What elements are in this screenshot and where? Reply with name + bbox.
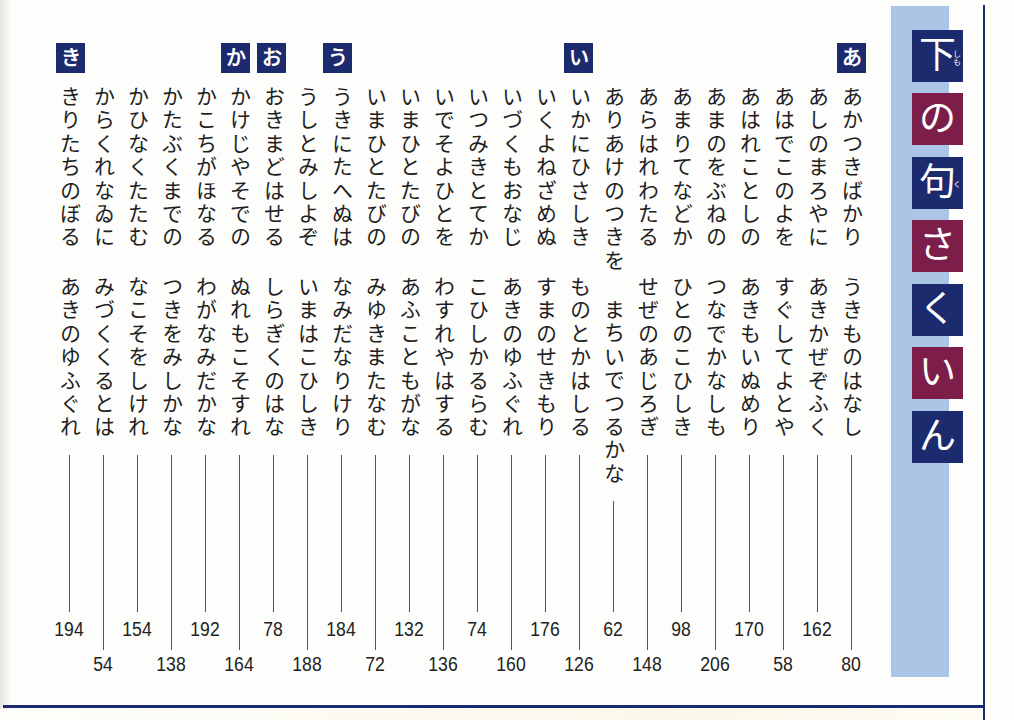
- verse-line-2: わがなみだかな: [188, 276, 222, 440]
- page-number: 138: [145, 654, 196, 674]
- index-entry: あはでこのよを すぐしてよとや 58: [766, 86, 800, 650]
- verse-line-1: ありあけのつきを: [596, 86, 630, 273]
- index-entry: いづくもおなじ あきのゆふぐれ 160: [494, 86, 528, 650]
- title-char-box: い: [912, 347, 963, 399]
- leader-line: [477, 455, 478, 612]
- verse-line-2: こひしかるらむ: [460, 276, 494, 440]
- page-number: 80: [825, 654, 876, 674]
- leader-line: [137, 455, 138, 612]
- index-entry: いくよねざめぬ すまのせきもり 176: [528, 86, 562, 612]
- verse-line-1: あはれことしの: [732, 86, 766, 250]
- ruby-reading: く: [951, 180, 960, 188]
- page-number: 136: [417, 654, 468, 674]
- bottom-margin: [0, 709, 984, 720]
- title-char-box: さ: [912, 220, 963, 272]
- index-entry: あまのをぶねの つなでかなしも 206: [698, 86, 732, 650]
- index-entry: あまりてなどか ひとのこひしき 98: [664, 86, 698, 612]
- leader-line: [443, 455, 444, 650]
- index-entry: あかつきばかり うきものはなし 80: [834, 86, 868, 650]
- leader-line: [307, 455, 308, 650]
- verse-line-1: かけじやそでの: [222, 86, 256, 250]
- index-entry: いかにひさしき ものとかはしる 126: [562, 86, 596, 650]
- leader-line: [851, 455, 852, 650]
- leader-line: [511, 455, 512, 650]
- index-entry: うしとみしよぞ いまはこひしき 188: [290, 86, 324, 650]
- verse-line-2: まちいでつるかな: [596, 299, 630, 486]
- index-entry: うきにたへぬは なみだなりけり 184: [324, 86, 358, 612]
- frame-vertical-rule: [983, 5, 985, 720]
- leader-line: [103, 455, 104, 650]
- verse-line-1: いつみきとてか: [460, 86, 494, 250]
- verse-line-1: きりたちのぼる: [52, 86, 86, 250]
- verse-line-2: せぜのあじろぎ: [630, 276, 664, 440]
- index-entry: いでそよひとを わすれやはする 136: [426, 86, 460, 650]
- section-tag-a: あ: [837, 43, 866, 73]
- verse-line-2: あふこともがな: [392, 276, 426, 440]
- verse-line-2: ひとのこひしき: [664, 276, 698, 440]
- title-char: く: [919, 284, 956, 336]
- index-entry: あしのまろやに あきかぜぞふく 162: [800, 86, 834, 612]
- verse-line-2: みづくくるとは: [86, 276, 120, 440]
- verse-line-1: いづくもおなじ: [494, 86, 528, 250]
- verse-line-2: うきものはなし: [834, 276, 868, 440]
- verse-line-1: あはでこのよを: [766, 86, 800, 250]
- index-entry: あらはれわたる せぜのあじろぎ 148: [630, 86, 664, 650]
- verse-line-1: あらはれわたる: [630, 86, 664, 250]
- index-entry: いまひとたびの あふこともがな 132: [392, 86, 426, 612]
- verse-line-2: ものとかはしる: [562, 276, 596, 440]
- page-number: 164: [213, 654, 264, 674]
- verse-line-2: つなでかなしも: [698, 276, 732, 440]
- verse-line-1: うきにたへぬは: [324, 86, 358, 250]
- verse-line-1: あまのをぶねの: [698, 86, 732, 250]
- verse-line-1: あしのまろやに: [800, 86, 834, 250]
- verse-line-2: あきもいぬめり: [732, 276, 766, 440]
- verse-line-1: うしとみしよぞ: [290, 86, 324, 250]
- verse-line-2: わすれやはする: [426, 276, 460, 440]
- title-char: さ: [919, 220, 956, 272]
- verse-line-1: いでそよひとを: [426, 86, 460, 250]
- verse-line-1: いくよねざめぬ: [528, 86, 562, 250]
- title-char-box: く: [912, 284, 963, 336]
- verse-line-1: いかにひさしき: [562, 86, 596, 250]
- index-entry: かひなくたたむ なこそをしけれ 154: [120, 86, 154, 612]
- verse-line-2: ぬれもこそすれ: [222, 276, 256, 440]
- title-char: ん: [919, 411, 956, 463]
- page-gutter-shadow: [0, 0, 12, 720]
- verse-line-1: いまひとたびの: [392, 86, 426, 250]
- leader-line: [579, 455, 580, 650]
- index-entry: かたぶくまでの つきをみしかな 138: [154, 86, 188, 650]
- leader-line: [239, 455, 240, 650]
- leader-line: [613, 501, 614, 612]
- verse-line-2: すまのせきもり: [528, 276, 562, 440]
- verse-line-2: あきかぜぞふく: [800, 276, 834, 440]
- verse-line-2: すぐしてよとや: [766, 276, 800, 440]
- index-entry: あはれことしの あきもいぬめり 170: [732, 86, 766, 612]
- leader-line: [545, 455, 546, 612]
- verse-line-2: つきをみしかな: [154, 276, 188, 440]
- leader-line: [647, 455, 648, 650]
- verse-line-2: なみだなりけり: [324, 276, 358, 440]
- page-number: 72: [349, 654, 400, 674]
- page-number: 188: [281, 654, 332, 674]
- verse-line-2: みゆきまたなむ: [358, 276, 392, 440]
- verse-line-1: あかつきばかり: [834, 86, 868, 250]
- ruby-reading: しも: [951, 50, 960, 66]
- verse-line-2: しらぎくのはな: [256, 276, 290, 440]
- verse-line-1: あまりてなどか: [664, 86, 698, 250]
- title-char-box: の: [912, 93, 963, 145]
- leader-line: [681, 455, 682, 612]
- title-char: の: [919, 93, 956, 145]
- page-number: 194: [43, 619, 94, 639]
- leader-line: [171, 455, 172, 650]
- frame-horizontal-rule: [3, 705, 985, 708]
- title-char: い: [919, 347, 956, 399]
- index-entry: きりたちのぼる あきのゆふぐれ 194: [52, 86, 86, 612]
- verse-line-2: あきのゆふぐれ: [52, 276, 86, 440]
- page-number: 206: [689, 654, 740, 674]
- page-number: 54: [77, 654, 128, 674]
- leader-line: [409, 455, 410, 612]
- section-tag-ka: か: [221, 43, 250, 73]
- index-entry: いまひとたびの みゆきまたなむ 72: [358, 86, 392, 650]
- index-entry: いつみきとてか こひしかるらむ 74: [460, 86, 494, 612]
- page-number: 126: [553, 654, 604, 674]
